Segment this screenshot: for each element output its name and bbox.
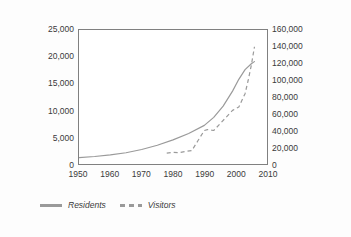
y-axis-right-tick: 80,000: [272, 93, 298, 102]
y-axis-left-tick: 15,000: [48, 79, 74, 88]
y-axis-right-tick: 120,000: [272, 59, 303, 68]
y-axis-left-tick: 10,000: [48, 106, 74, 115]
x-axis-tick: 1960: [100, 170, 119, 179]
y-axis-left-tick: 25,000: [48, 25, 74, 34]
y-axis-right-tick: 20,000: [272, 144, 298, 153]
x-axis-tick: 1980: [164, 170, 183, 179]
series-line-residents: [79, 62, 254, 158]
legend-swatch-solid-icon: [40, 204, 62, 207]
legend-item-residents: Residents: [40, 201, 106, 210]
x-axis-tick: 1950: [69, 170, 88, 179]
x-axis-tick: 1970: [132, 170, 151, 179]
x-axis-tick: 1990: [195, 170, 214, 179]
y-axis-left-tick: 0: [69, 161, 74, 170]
y-axis-right-tick: 100,000: [272, 76, 303, 85]
y-axis-right-tick: 160,000: [272, 25, 303, 34]
legend-label-residents: Residents: [68, 201, 106, 210]
plot-area: [78, 29, 268, 165]
legend-swatch-dashed-icon: [120, 204, 142, 207]
chart-figure: 05,00010,00015,00020,00025,000 020,00040…: [0, 0, 351, 237]
y-axis-left-tick: 20,000: [48, 52, 74, 61]
y-axis-right-tick: 0: [272, 161, 277, 170]
legend-label-visitors: Visitors: [148, 201, 176, 210]
x-axis-tick: 2000: [227, 170, 246, 179]
y-axis-left-tick: 5,000: [53, 134, 74, 143]
series-canvas: [79, 30, 267, 164]
chart-legend: Residents Visitors: [40, 201, 176, 210]
y-axis-right-tick: 140,000: [272, 42, 303, 51]
y-axis-right-tick: 40,000: [272, 127, 298, 136]
x-axis-tick: 2010: [259, 170, 278, 179]
y-axis-right-tick: 60,000: [272, 110, 298, 119]
legend-item-visitors: Visitors: [120, 201, 176, 210]
